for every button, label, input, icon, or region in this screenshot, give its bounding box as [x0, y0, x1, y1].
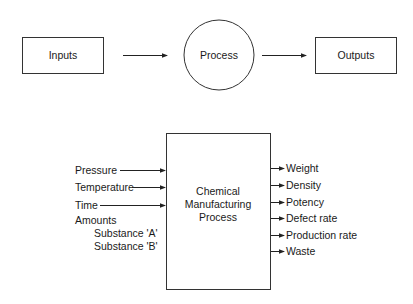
detail-diagram: Chemical Manufacturing Process Pressure … [75, 134, 357, 290]
input-label-substance-b: Substance 'B' [94, 240, 158, 252]
input-label-temperature: Temperature [75, 181, 134, 193]
output-label-waste: Waste [286, 245, 316, 257]
process-line-3: Process [199, 211, 237, 223]
process-line-1: Chemical [196, 185, 240, 197]
diagram-canvas: Inputs Process Outputs Chemical Manufact… [0, 0, 413, 304]
output-label-weight: Weight [286, 162, 319, 174]
output-label-production-rate: Production rate [286, 229, 357, 241]
input-label-pressure: Pressure [75, 164, 117, 176]
output-label-potency: Potency [286, 196, 325, 208]
output-label-density: Density [286, 179, 322, 191]
process-label: Process [200, 49, 238, 61]
outputs-label: Outputs [338, 49, 375, 61]
output-label-defect-rate: Defect rate [286, 212, 338, 224]
input-label-time: Time [75, 199, 98, 211]
process-line-2: Manufacturing [185, 198, 252, 210]
top-flow: Inputs Process Outputs [23, 20, 397, 90]
input-label-amounts: Amounts [75, 214, 116, 226]
inputs-label: Inputs [49, 49, 78, 61]
input-label-substance-a: Substance 'A' [94, 227, 158, 239]
